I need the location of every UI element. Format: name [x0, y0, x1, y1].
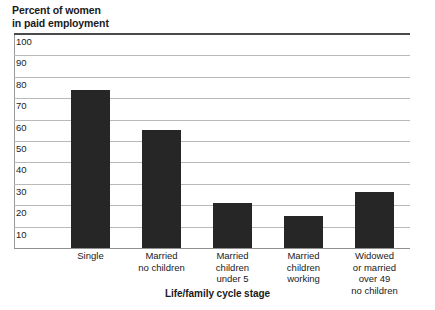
x-category-label-4: Married children working: [265, 250, 343, 285]
bar-1: [71, 90, 110, 248]
y-axis-title-text-2: in paid employment: [12, 17, 109, 29]
bar-4: [284, 216, 323, 248]
y-tick-label-10: 10: [16, 229, 27, 240]
bar-2: [142, 130, 181, 248]
y-tick-label-100: 100: [16, 36, 32, 47]
y-tick-label-70: 70: [16, 100, 27, 111]
x-category-label-3: Married children under 5: [194, 250, 272, 285]
y-tick-label-30: 30: [16, 186, 27, 197]
x-category-label-2: Married no children: [123, 250, 201, 273]
gridline-90: [14, 55, 410, 56]
y-tick-label-90: 90: [16, 57, 27, 68]
gridline-80: [14, 77, 410, 78]
y-tick-label-60: 60: [16, 122, 27, 133]
x-category-label-1: Single: [52, 250, 130, 262]
x-axis-baseline: [14, 248, 410, 249]
x-axis-title: Life/family cycle stage: [0, 288, 435, 299]
bar-chart-figure: Percent of womenin paid employment 10090…: [0, 0, 435, 310]
plot-area: 100908070605040302010: [14, 34, 410, 248]
y-tick-label-80: 80: [16, 79, 27, 90]
gridline-100: [14, 33, 410, 35]
y-axis-title-text: Percent of women: [12, 4, 101, 16]
y-tick-label-40: 40: [16, 164, 27, 175]
y-tick-label-50: 50: [16, 143, 27, 154]
bar-3: [213, 203, 252, 248]
y-axis-title: Percent of womenin paid employment: [12, 4, 109, 30]
y-tick-label-20: 20: [16, 207, 27, 218]
bar-5: [355, 192, 394, 248]
